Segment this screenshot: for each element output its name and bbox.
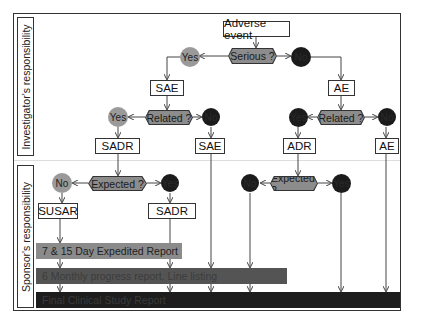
expected-right-no-circle: No [241, 174, 259, 192]
node-sae-2: SAE [195, 138, 225, 154]
report-band-final: Final Clinical Study Report [36, 292, 400, 308]
serious-yes-circle: Yes [180, 47, 200, 67]
decision-related-right-label: Related ? [318, 111, 364, 124]
related-right-yes-circle: Yes [289, 108, 308, 127]
expected-right-yes-circle: Yes [332, 174, 351, 193]
serious-no-circle: No [291, 47, 311, 67]
decision-expected-right-label: Expected ? [271, 177, 317, 190]
decision-related-left-label: Related ? [146, 111, 192, 124]
expected-left-yes-circle: Yes [161, 174, 179, 192]
node-adverse-event: Adverse event [223, 21, 290, 37]
decision-related-right: Related ? [317, 110, 365, 125]
node-adr: ADR [283, 138, 316, 154]
node-susar: SUSAR [38, 203, 78, 219]
decision-expected-right: Expected ? [270, 176, 318, 191]
report-band-expedited: 7 & 15 Day Expedited Report [36, 243, 182, 259]
node-sadr: SADR [95, 138, 140, 154]
node-sadr-2: SADR [148, 203, 196, 219]
related-right-no-circle: No [378, 108, 396, 126]
node-ae-2: AE [375, 138, 399, 154]
related-left-no-circle: No [202, 108, 220, 126]
decision-expected-left: Expected ? [88, 176, 147, 191]
decision-serious: Serious ? [228, 48, 277, 64]
node-sae: SAE [150, 80, 184, 96]
report-band-monthly: 6 Monthly progress report. Line listing [36, 268, 287, 284]
node-ae: AE [328, 80, 355, 96]
expected-left-no-circle: No [52, 173, 72, 193]
decision-related-left: Related ? [145, 110, 193, 125]
decision-serious-label: Serious ? [229, 49, 276, 63]
related-left-yes-circle: Yes [108, 107, 128, 127]
decision-expected-left-label: Expected ? [89, 177, 146, 190]
